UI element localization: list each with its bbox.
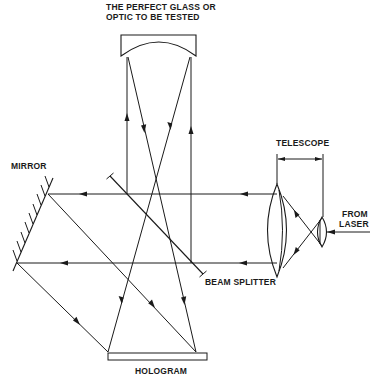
mirror-label: MIRROR [11, 161, 47, 171]
test-optic-label-line2: OPTIC TO BE TESTED [106, 12, 200, 22]
diagram-canvas: THE PERFECT GLASS OR OPTIC TO BE TESTED [0, 0, 376, 382]
test-optic-label-line1: THE PERFECT GLASS OR [106, 2, 216, 12]
hologram-label: HOLOGRAM [135, 366, 187, 376]
test-optic [121, 35, 196, 56]
hologram-plate [108, 353, 207, 360]
beam-splitter-label: BEAM SPLITTER [205, 277, 276, 287]
mirror [13, 176, 53, 271]
from-laser-label-line2: LASER [339, 219, 369, 229]
reference-beams [17, 194, 196, 352]
laser-input-beam [327, 230, 370, 235]
telescope-label: TELESCOPE [276, 138, 329, 148]
reflected-beams [108, 57, 196, 352]
from-laser-label-line1: FROM [342, 209, 368, 219]
telescope [268, 154, 327, 277]
